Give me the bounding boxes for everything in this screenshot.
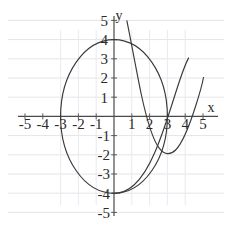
graph-figure: x y -5 -4 -3 -2 -1 1 2 3 4 5 5 4 3 2 1 -… xyxy=(0,0,232,225)
x-tick-label: -4 xyxy=(37,116,50,132)
x-tick-label: -2 xyxy=(72,116,85,132)
y-tick-label: -4 xyxy=(98,186,111,202)
y-tick-label: 5 xyxy=(101,13,109,29)
y-tick-label: 4 xyxy=(101,32,109,48)
x-tick-label: 1 xyxy=(128,116,136,132)
x-tick-label: 2 xyxy=(146,116,154,132)
y-tick-label: -5 xyxy=(98,205,111,221)
y-tick-label: 2 xyxy=(101,70,109,86)
y-axis-label: y xyxy=(116,8,123,23)
x-tick-label: -5 xyxy=(19,116,32,132)
coordinate-plot: x y -5 -4 -3 -2 -1 1 2 3 4 5 5 4 3 2 1 -… xyxy=(0,0,232,225)
x-tick-label: 5 xyxy=(199,116,207,132)
y-tick-label: 1 xyxy=(101,90,109,106)
y-tick-label: -1 xyxy=(98,128,111,144)
y-tick-label: 3 xyxy=(101,51,109,67)
y-tick-label: -2 xyxy=(98,147,111,163)
x-tick-label: -3 xyxy=(54,116,67,132)
curve-parabola xyxy=(127,20,204,153)
x-axis-label: x xyxy=(208,100,215,115)
x-tick-label: 4 xyxy=(181,116,189,132)
y-tick-label: -3 xyxy=(98,166,111,182)
x-tick-label: 3 xyxy=(164,116,172,132)
